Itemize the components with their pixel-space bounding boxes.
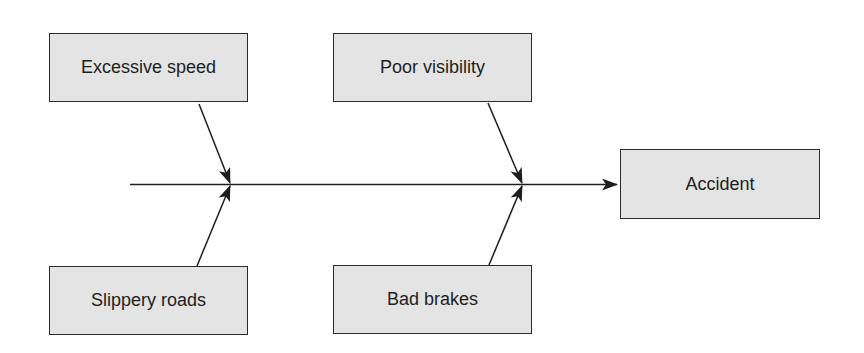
cause-label: Bad brakes: [387, 289, 478, 310]
arrow-excessive-speed: [199, 104, 230, 183]
cause-label: Slippery roads: [91, 290, 206, 311]
cause-box-slippery-roads: Slippery roads: [49, 266, 248, 335]
effect-box-accident: Accident: [620, 149, 820, 219]
cause-box-excessive-speed: Excessive speed: [49, 33, 248, 102]
arrow-slippery-roads: [197, 186, 230, 266]
cause-label: Excessive speed: [81, 57, 216, 78]
cause-box-bad-brakes: Bad brakes: [333, 265, 532, 334]
cause-label: Poor visibility: [380, 57, 485, 78]
arrow-bad-brakes: [489, 186, 522, 265]
cause-box-poor-visibility: Poor visibility: [333, 33, 532, 102]
effect-label: Accident: [685, 174, 754, 195]
arrow-poor-visibility: [488, 103, 522, 183]
fishbone-diagram: Excessive speed Poor visibility Slippery…: [0, 0, 864, 353]
